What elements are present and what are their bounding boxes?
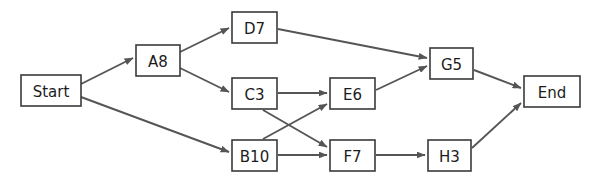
node-label-f7: F7: [343, 148, 361, 166]
edge-a8-c3: [180, 68, 229, 92]
node-label-a8: A8: [148, 53, 168, 71]
node-h3[interactable]: H3: [428, 140, 471, 171]
node-label-g5: G5: [441, 56, 462, 74]
edge-h3-end: [472, 103, 521, 148]
node-end[interactable]: End: [524, 76, 580, 107]
flowchart-canvas: StartA8D7C3B10E6F7G5H3End: [0, 0, 598, 186]
node-f7[interactable]: F7: [330, 140, 375, 171]
edge-start-b10: [81, 97, 229, 152]
flowchart-graph: StartA8D7C3B10E6F7G5H3End: [0, 0, 598, 186]
node-label-b10: B10: [240, 148, 269, 166]
node-label-start: Start: [33, 83, 70, 101]
node-label-h3: H3: [439, 148, 460, 166]
edge-e6-g5: [376, 66, 427, 90]
node-label-d7: D7: [244, 20, 265, 38]
node-label-end: End: [538, 84, 567, 102]
node-d7[interactable]: D7: [232, 12, 277, 43]
node-a8[interactable]: A8: [136, 45, 180, 76]
edge-g5-end: [474, 70, 521, 88]
node-label-c3: C3: [244, 86, 264, 104]
edge-d7-g5: [278, 29, 427, 58]
node-start[interactable]: Start: [21, 75, 81, 106]
edge-a8-d7: [180, 28, 229, 52]
node-e6[interactable]: E6: [330, 78, 375, 109]
nodes-layer: StartA8D7C3B10E6F7G5H3End: [21, 12, 580, 171]
node-b10[interactable]: B10: [232, 140, 277, 171]
node-c3[interactable]: C3: [232, 78, 277, 109]
node-g5[interactable]: G5: [430, 48, 473, 79]
node-label-e6: E6: [343, 86, 362, 104]
edge-start-a8: [81, 58, 133, 84]
